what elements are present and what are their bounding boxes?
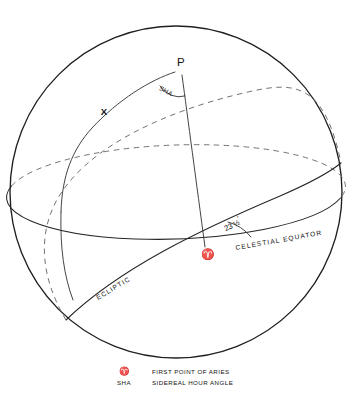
ecliptic-label: ECLIPTIC (95, 275, 132, 301)
hour-circle-through-star-lower (61, 212, 73, 300)
ecliptic-front-arc (66, 163, 341, 320)
legend: ♈ FIRST POINT OF ARIES SHA SIDEREAL HOUR… (117, 366, 233, 386)
star-label: X (101, 106, 108, 117)
legend-row-sha: SHA SIDEREAL HOUR ANGLE (117, 379, 233, 386)
aries-point-symbol: ♈ (201, 248, 215, 261)
celestial-sphere-diagram: P X SHA 23 ½ ° CELESTIAL EQUATOR ECLIPTI… (0, 0, 354, 394)
legend-aries-symbol: ♈ (119, 366, 130, 376)
meridian-pole-to-aries (182, 75, 205, 247)
hour-circle-through-star (61, 72, 175, 212)
legend-sha-key: SHA (117, 379, 131, 386)
legend-sha-description: SIDEREAL HOUR ANGLE (152, 379, 233, 386)
celestial-equator-back-arc (12, 145, 346, 198)
pole-label: P (177, 56, 185, 68)
celestial-equator-front-arc (7, 186, 341, 239)
ecliptic-back-arc-hidden (44, 87, 341, 320)
legend-row-aries: ♈ FIRST POINT OF ARIES (119, 366, 230, 376)
legend-aries-description: FIRST POINT OF ARIES (152, 368, 230, 375)
celestial-sphere-figure: P X SHA 23 ½ ° CELESTIAL EQUATOR ECLIPTI… (0, 0, 354, 394)
